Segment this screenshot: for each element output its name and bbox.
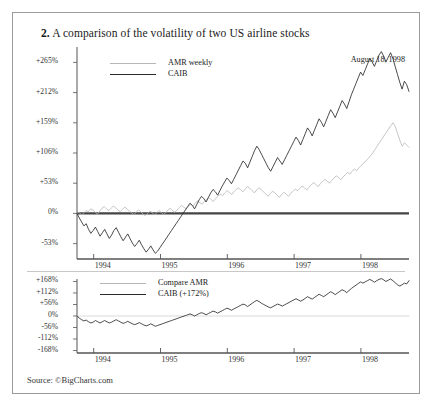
x-axis-label: 1995 — [162, 261, 178, 270]
lower-chart-panel — [13, 271, 421, 379]
y-axis-label: 0% — [12, 207, 58, 216]
y-axis-label: -53% — [12, 238, 58, 247]
y-axis-label: +56% — [12, 298, 58, 307]
legend-swatch-amr — [110, 63, 156, 64]
y-axis-label: -168% — [12, 345, 58, 354]
x-axis-label: 1997 — [295, 355, 311, 364]
legend-label-caib: CAIB — [168, 69, 188, 78]
x-axis-label: 1996 — [228, 261, 244, 270]
y-axis-label: -112% — [12, 333, 58, 342]
y-axis-label: +53% — [12, 177, 58, 186]
y-axis-label: +212% — [12, 87, 58, 96]
legend-label-amr: Compare AMR — [158, 278, 208, 287]
x-axis-label: 1994 — [95, 261, 111, 270]
legend-swatch-caib — [110, 74, 156, 75]
y-axis-label: -56% — [12, 322, 58, 331]
figure-frame: 2. A comparison of the volatility of two… — [12, 12, 420, 394]
legend-swatch-caib — [100, 294, 146, 295]
lower-plot-svg — [13, 271, 421, 379]
x-axis-label: 1998 — [362, 261, 378, 270]
y-axis-label: +159% — [12, 117, 58, 126]
legend-label-amr: AMR weekly — [168, 58, 212, 67]
y-axis-label: 0% — [12, 310, 58, 319]
legend-label-caib: CAIB (+172%) — [158, 289, 209, 298]
x-axis-label: 1998 — [362, 355, 378, 364]
y-axis-label: +112% — [12, 287, 58, 296]
x-axis-label: 1995 — [162, 355, 178, 364]
legend-swatch-amr — [100, 283, 146, 284]
y-axis-label: +106% — [12, 147, 58, 156]
upper-plot-svg — [13, 13, 421, 275]
x-axis-label: 1994 — [95, 355, 111, 364]
upper-chart-panel — [13, 13, 421, 275]
y-axis-label: +265% — [12, 56, 58, 65]
x-axis-label: 1996 — [228, 355, 244, 364]
source-caption: Source: ©BigCharts.com — [27, 375, 113, 385]
y-axis-label: +168% — [12, 275, 58, 284]
x-axis-label: 1997 — [295, 261, 311, 270]
